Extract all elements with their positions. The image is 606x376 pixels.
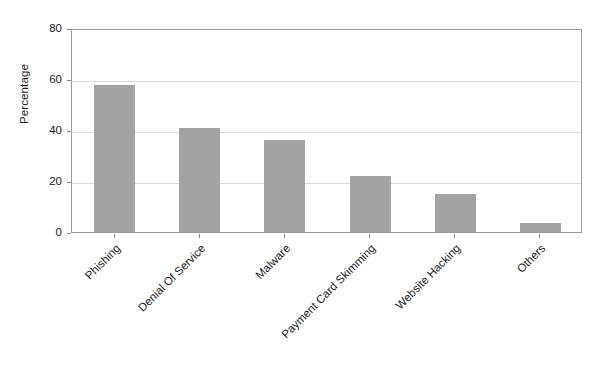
- bar: [179, 128, 220, 233]
- x-axis-tick-mark: [369, 234, 370, 238]
- gridline: [72, 81, 581, 82]
- bar-chart-figure: Percentage 020406080 PhishingDenial Of S…: [0, 0, 606, 376]
- bar: [350, 176, 391, 232]
- bar: [94, 85, 135, 232]
- y-axis-tick-label: 20: [18, 176, 62, 188]
- x-axis-tick-mark: [539, 234, 540, 238]
- x-axis-tick-mark: [114, 234, 115, 238]
- y-axis-tick-mark: [67, 233, 71, 234]
- x-axis-tick-mark: [454, 234, 455, 238]
- plot-area: [71, 29, 582, 233]
- x-axis-tick-mark: [284, 234, 285, 238]
- gridline: [72, 183, 581, 184]
- bar: [264, 140, 305, 232]
- bar: [435, 194, 476, 232]
- gridline: [72, 132, 581, 133]
- y-axis-tick-label: 80: [18, 23, 62, 35]
- y-axis-tick-label: 60: [18, 74, 62, 86]
- y-axis-tick-label: 0: [18, 227, 62, 239]
- x-axis-tick-label: Phishing: [0, 242, 123, 376]
- y-axis-tick-label: 40: [18, 125, 62, 137]
- x-axis-tick-mark: [199, 234, 200, 238]
- bar: [520, 223, 561, 232]
